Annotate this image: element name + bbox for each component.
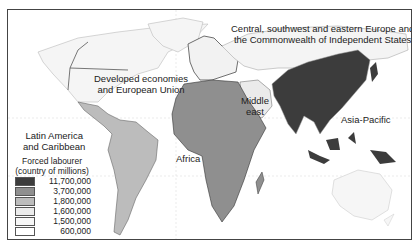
label-middle-east: Middle east — [241, 95, 269, 117]
legend-value: 1,800,000 — [35, 196, 93, 206]
label-line: east — [241, 106, 269, 117]
label-line: and European Union — [94, 84, 188, 95]
label-africa: Africa — [176, 153, 200, 164]
legend-item: 11,700,000 — [11, 176, 93, 186]
legend-item: 1,800,000 — [11, 196, 93, 206]
label-latin-america: Latin America and Caribbean — [23, 130, 85, 152]
label-line: Middle — [241, 95, 269, 106]
region-australia — [332, 170, 392, 220]
legend-value: 1,500,000 — [35, 216, 93, 226]
map-frame: Central, southwest and eastern Europe an… — [7, 9, 412, 240]
label-line: Asia-Pacific — [341, 114, 391, 125]
label-line: Central, southwest and eastern Europe an… — [231, 23, 412, 34]
legend-title: Forced labourer — [11, 156, 93, 166]
legend-value: 11,700,000 — [35, 176, 93, 186]
legend-swatch — [15, 177, 35, 186]
legend-swatch — [15, 207, 35, 216]
legend-swatch — [15, 197, 35, 206]
label-line: Developed economies — [94, 73, 188, 84]
label-central-europe-cis: Central, southwest and eastern Europe an… — [231, 23, 412, 45]
legend-value: 3,700,000 — [35, 186, 93, 196]
label-line: and Caribbean — [23, 141, 85, 152]
legend-item: 1,600,000 — [11, 206, 93, 216]
legend-item: 1,500,000 — [11, 216, 93, 226]
label-line: Latin America — [23, 130, 85, 141]
legend-item: 3,700,000 — [11, 186, 93, 196]
label-developed-economies: Developed economies and European Union — [94, 73, 188, 95]
legend-value: 1,600,000 — [35, 206, 93, 216]
legend-swatch — [15, 187, 35, 196]
legend-swatch — [15, 217, 35, 226]
legend-swatch — [15, 227, 35, 236]
legend-subtitle: (country of millions) — [11, 166, 93, 176]
label-line: Africa — [176, 153, 200, 164]
legend-item: 600,000 — [11, 226, 93, 236]
label-asia-pacific: Asia-Pacific — [341, 114, 391, 125]
legend-value: 600,000 — [35, 226, 93, 236]
legend: Forced labourer (country of millions) 11… — [11, 156, 93, 236]
label-line: the Commonwealth of Independent States — [231, 34, 412, 45]
